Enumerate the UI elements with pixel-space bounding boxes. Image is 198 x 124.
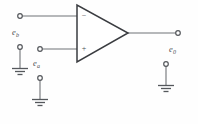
noninverting-input-sign: + [82, 44, 87, 53]
input-b-ground-terminal[interactable] [18, 45, 23, 50]
schematic-canvas: − + [0, 0, 198, 124]
input-a-ground-terminal[interactable] [38, 76, 43, 81]
label-input-a-subscript: a [37, 63, 40, 69]
label-input-b-subscript: b [16, 32, 19, 38]
ground-center [32, 76, 48, 106]
label-output-subscript: 0 [173, 49, 176, 55]
label-input-b: eb [12, 28, 19, 37]
ground-right [158, 62, 174, 92]
circuit-diagram: − + [0, 0, 198, 124]
inverting-input-sign: − [82, 11, 87, 20]
output-terminal[interactable] [176, 31, 181, 36]
label-output: e0 [169, 45, 176, 54]
label-input-a: ea [33, 59, 40, 68]
noninverting-input-terminal[interactable] [38, 47, 43, 52]
op-amp-symbol: − + [77, 5, 128, 62]
inverting-input-terminal[interactable] [18, 14, 23, 19]
ground-left [12, 45, 28, 75]
output-ground-terminal[interactable] [164, 62, 169, 67]
